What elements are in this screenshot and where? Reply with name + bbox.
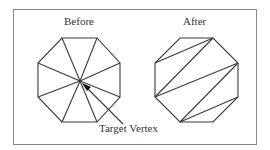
diagonal-edge: [155, 38, 213, 97]
diagonal-edge: [155, 38, 213, 63]
diagonal-edge: [155, 63, 238, 97]
target-arrow: [82, 83, 123, 124]
diagonal-edge: [180, 97, 238, 122]
target-vertex-label: Target Vertex: [99, 122, 158, 134]
diagonal-edge: [180, 63, 238, 122]
after-title: After: [183, 15, 206, 27]
after-octagon: [155, 38, 238, 122]
before-title: Before: [64, 15, 94, 27]
triangulation-diagram: Before After Target Vertex: [0, 0, 270, 150]
